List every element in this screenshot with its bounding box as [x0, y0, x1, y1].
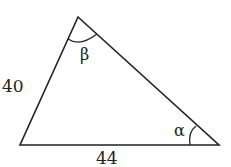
angle-arc-alpha: [190, 126, 196, 145]
side-label-left: 40: [2, 76, 24, 96]
angle-label-beta: β: [80, 45, 89, 64]
side-label-bottom: 44: [96, 148, 118, 167]
angle-label-alpha: α: [174, 121, 185, 140]
triangle: [20, 17, 219, 145]
angle-arc-beta: [68, 34, 97, 42]
triangle-diagram: 40 44 β α: [0, 0, 231, 167]
